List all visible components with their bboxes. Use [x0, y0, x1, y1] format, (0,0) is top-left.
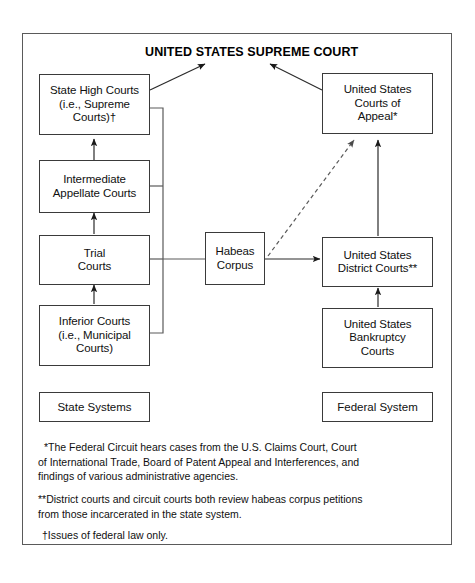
- node-state-high-courts[interactable]: State High Courts (i.e., Supreme Courts)…: [39, 74, 150, 135]
- legend-federal-system[interactable]: Federal System: [322, 392, 433, 422]
- court-system-diagram: UNITED STATES SUPREME COURT State High C…: [0, 0, 475, 583]
- node-us-district-courts[interactable]: United States District Courts**: [322, 237, 433, 287]
- node-us-courts-of-appeal[interactable]: United States Courts of Appeal*: [322, 73, 433, 134]
- note-double-asterisk: **District courts and circuit courts bot…: [38, 492, 363, 521]
- page-title: UNITED STATES SUPREME COURT: [145, 45, 335, 59]
- node-trial-courts[interactable]: Trial Courts: [39, 235, 150, 285]
- legend-state-systems[interactable]: State Systems: [39, 392, 150, 422]
- node-habeas-corpus[interactable]: Habeas Corpus: [205, 232, 265, 285]
- node-inferior-courts[interactable]: Inferior Courts (i.e., Municipal Courts): [39, 305, 150, 366]
- node-us-bankruptcy-courts[interactable]: United States Bankruptcy Courts: [322, 308, 433, 368]
- note-dagger: †Issues of federal law only.: [38, 528, 363, 543]
- node-intermediate-appellate-courts[interactable]: Intermediate Appellate Courts: [39, 160, 150, 213]
- note-asterisk: *The Federal Circuit hears cases from th…: [38, 440, 363, 484]
